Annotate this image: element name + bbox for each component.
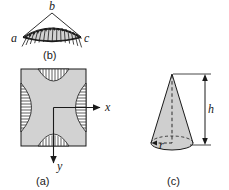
axis-y-label: y	[56, 159, 63, 173]
wedge-apex-label-b: b	[49, 0, 55, 13]
height-arrowhead-top	[202, 74, 208, 81]
wedge-vertex-label-c: c	[84, 31, 90, 45]
technical-figure-svg: b a c	[0, 0, 229, 190]
cone-radius-label: r	[159, 138, 164, 152]
axis-x-label: x	[104, 100, 111, 114]
wedge-vertex-label-a: a	[11, 31, 17, 45]
panel-c-cone: r h (c)	[151, 74, 214, 187]
panel-a-square-section: x y (a)	[21, 69, 111, 187]
caption-c: (c)	[167, 175, 180, 187]
caption-a: (a)	[36, 175, 49, 187]
panel-b-wedge: b a c	[11, 0, 90, 61]
cone-height-label: h	[208, 102, 214, 116]
height-arrowhead-bottom	[202, 138, 208, 145]
figure-panel-group: b a c	[0, 0, 229, 190]
caption-b: (b)	[43, 49, 56, 61]
